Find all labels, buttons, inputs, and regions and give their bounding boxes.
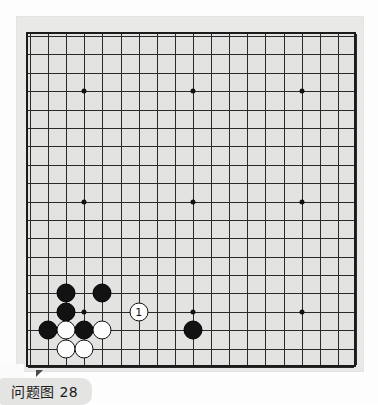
- corner-tab-icon: [36, 370, 43, 377]
- stone-black[interactable]: [93, 284, 112, 303]
- caption-text: 问题图 28: [0, 378, 92, 405]
- stones-layer[interactable]: 1: [28, 34, 354, 365]
- stone-black[interactable]: [184, 321, 203, 340]
- stone-white-numbered[interactable]: 1: [129, 302, 148, 321]
- stone-black[interactable]: [57, 284, 76, 303]
- stone-white[interactable]: [93, 321, 112, 340]
- stone-move-number: 1: [135, 306, 142, 317]
- grid-line-horizontal: [28, 367, 354, 368]
- stone-black[interactable]: [57, 302, 76, 321]
- stone-white[interactable]: [57, 321, 76, 340]
- figure-caption: 问题图 28: [0, 378, 92, 405]
- go-board[interactable]: 1: [26, 32, 356, 367]
- grid-line-vertical: [356, 34, 357, 365]
- stone-white[interactable]: [75, 339, 94, 358]
- stone-white[interactable]: [57, 339, 76, 358]
- stone-black[interactable]: [39, 321, 58, 340]
- stone-black[interactable]: [75, 321, 94, 340]
